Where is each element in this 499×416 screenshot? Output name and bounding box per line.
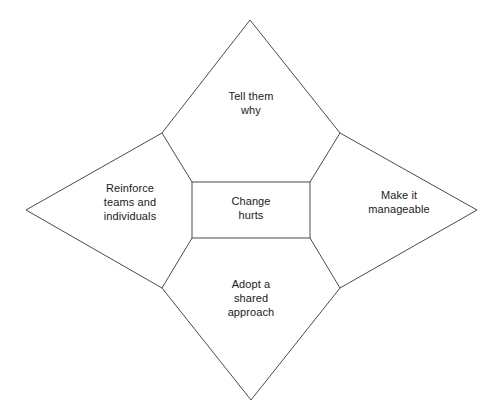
star-point-label-bottom: Adopt a shared approach: [191, 277, 311, 319]
star-point-label-right: Make it manageable: [336, 188, 462, 216]
center-node-label: Change hurts: [193, 194, 309, 222]
star-diagram: Tell them why Reinforce teams and indivi…: [0, 0, 499, 416]
star-point-label-top: Tell them why: [191, 89, 311, 117]
star-point-label-left: Reinforce teams and individuals: [75, 181, 185, 223]
